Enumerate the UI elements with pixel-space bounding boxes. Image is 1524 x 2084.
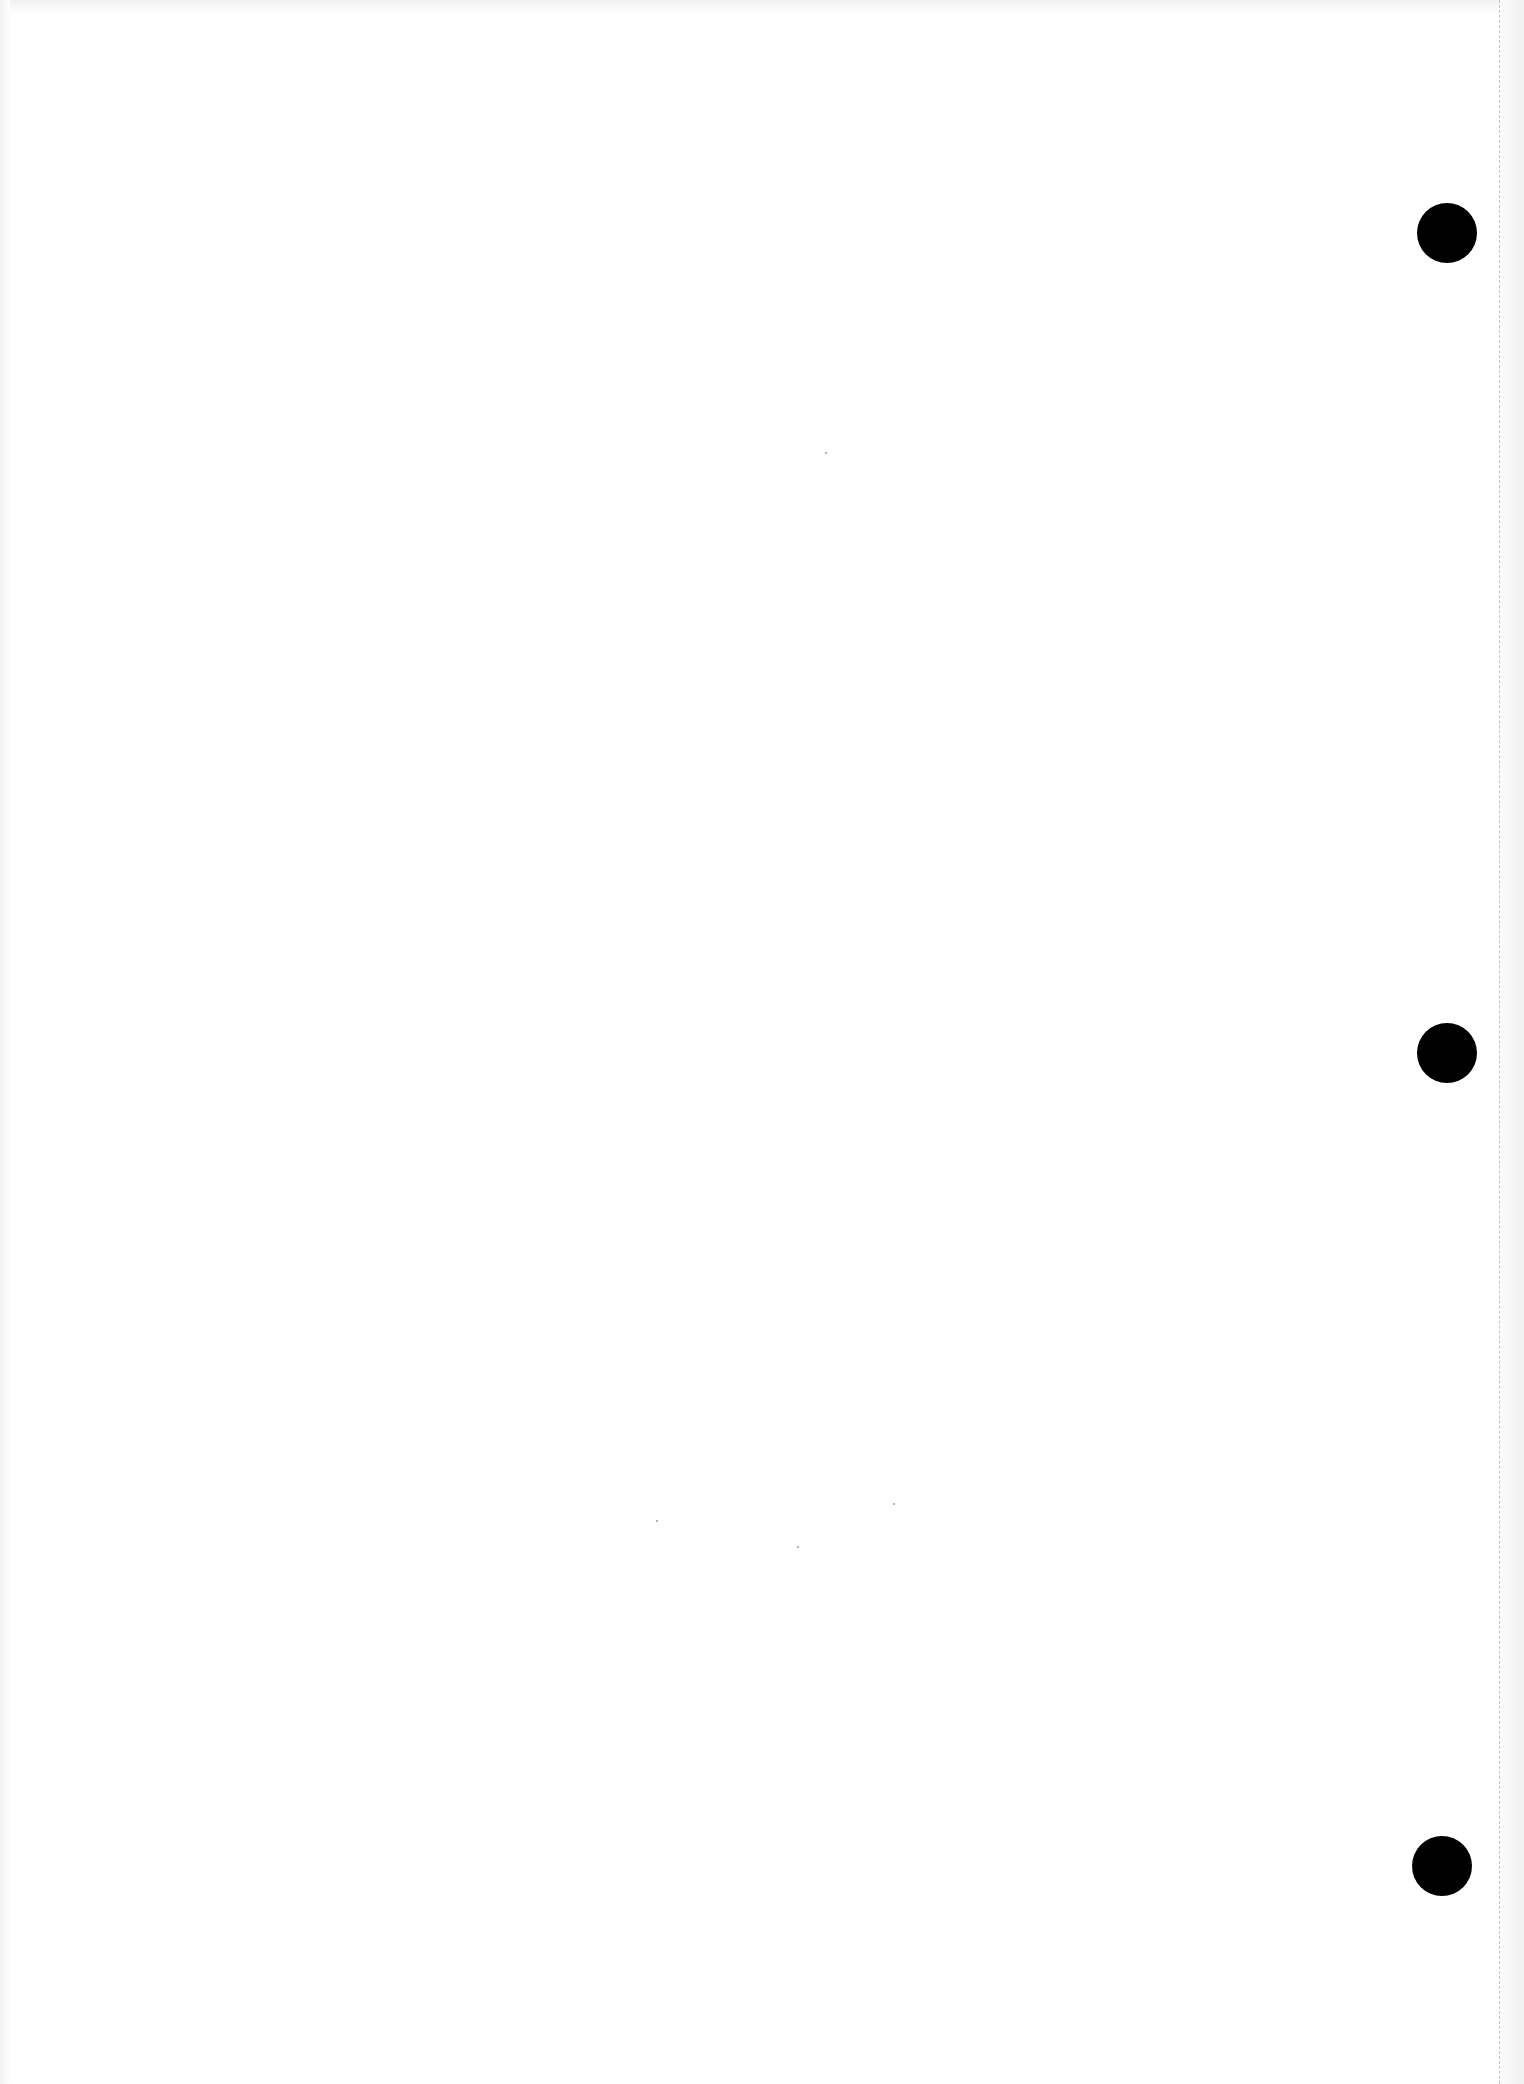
punch-hole-bottom [1412,1836,1472,1896]
perforation-line [1499,0,1500,2084]
scan-left-shadow [0,0,10,2084]
dust-speck [825,452,827,454]
punch-hole-top [1417,203,1477,263]
scan-top-shadow [0,0,1524,14]
scanned-page [0,0,1524,2084]
dust-speck [893,1503,895,1505]
dust-speck [797,1546,799,1548]
tear-off-strip [1500,0,1524,2084]
dust-speck [656,1520,658,1522]
punch-hole-middle [1417,1023,1477,1083]
